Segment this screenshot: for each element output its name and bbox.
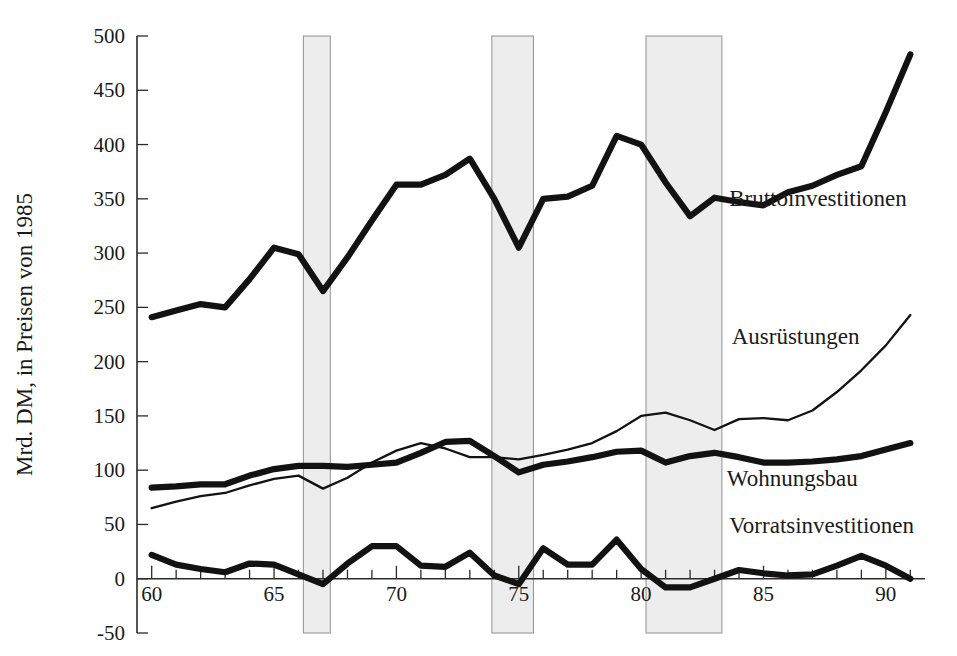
series-label-vorratsinvestitionen: Vorratsinvestitionen (729, 513, 914, 538)
investment-line-chart: -50050100150200250300350400450500 606570… (0, 0, 957, 656)
recession-band (303, 36, 330, 633)
y-tick-label: 300 (94, 241, 126, 265)
y-tick-label: 150 (94, 404, 126, 428)
series-label-ausrüstungen: Ausrüstungen (732, 324, 860, 349)
chart-figure: -50050100150200250300350400450500 606570… (0, 0, 957, 656)
x-tick-label: 80 (631, 582, 652, 606)
recession-band (492, 36, 534, 633)
x-tick-label: 90 (875, 582, 896, 606)
y-tick-label: -50 (97, 621, 125, 645)
y-axis-title-text: Mrd. DM, in Preisen von 1985 (12, 193, 37, 476)
series-label-wohnungsbau: Wohnungsbau (727, 466, 859, 491)
series-label-bruttoinvestitionen: Bruttoinvestitionen (729, 186, 907, 211)
y-tick-label: 500 (94, 24, 126, 48)
x-tick-label: 65 (264, 582, 285, 606)
x-tick-label: 85 (753, 582, 774, 606)
y-tick-label: 100 (94, 458, 126, 482)
y-tick-label: 400 (94, 133, 126, 157)
x-tick-label: 60 (141, 582, 162, 606)
recession-band (646, 36, 722, 633)
y-tick-label: 0 (115, 567, 126, 591)
y-tick-label: 250 (94, 295, 126, 319)
y-tick-label: 350 (94, 187, 126, 211)
y-tick-label: 450 (94, 78, 126, 102)
y-axis-title: Mrd. DM, in Preisen von 1985 (12, 193, 37, 476)
x-tick-label: 70 (386, 582, 407, 606)
y-tick-label: 50 (104, 512, 125, 536)
y-tick-label: 200 (94, 350, 126, 374)
